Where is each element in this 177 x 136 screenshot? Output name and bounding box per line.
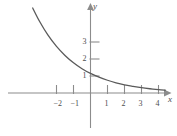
x-tick-label: 1: [105, 100, 109, 108]
x-tick-label: −2: [54, 100, 63, 108]
x-tick-label: 2: [122, 100, 126, 108]
y-tick-label: 3: [83, 38, 87, 46]
x-tick-label: 4: [156, 100, 160, 108]
graph-figure: −2−11234 123 x y: [0, 0, 177, 136]
x-axis: [8, 90, 172, 97]
x-axis-label: x: [168, 95, 172, 104]
x-tick-label: 3: [139, 100, 143, 108]
exponential-decay-curve: [33, 8, 166, 90]
x-tick-label: −1: [71, 100, 80, 108]
y-axis-label: y: [93, 2, 97, 11]
y-tick-label: 1: [83, 72, 87, 80]
y-axis: [87, 3, 94, 128]
plot-canvas: [0, 0, 177, 136]
y-tick-label: 2: [83, 55, 87, 63]
